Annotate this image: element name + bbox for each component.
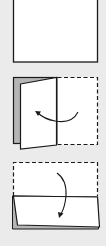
step-3-fold-down	[13, 163, 100, 230]
folded-front	[14, 196, 100, 227]
dashed-outline	[58, 78, 98, 145]
step-1-square	[14, 0, 98, 62]
step-2-flap-fold	[14, 78, 98, 150]
origami-diagram	[0, 0, 106, 246]
dashed-outline	[14, 163, 98, 197]
